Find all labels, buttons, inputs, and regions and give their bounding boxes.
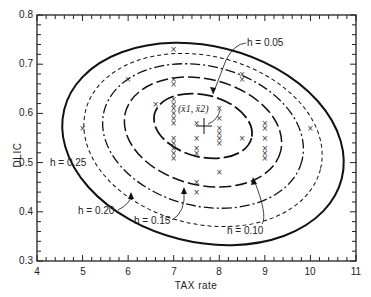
label-h-0.15: h = 0.15 [134,215,171,226]
x-tick-label: 4 [34,266,40,277]
x-tick-label: 11 [351,266,362,277]
y-axis-title: DLIC [12,143,23,168]
x-tick-label: 10 [304,266,316,277]
data-point: × [170,154,177,163]
data-point: × [216,168,223,177]
y-tick-label: 0.4 [19,206,33,217]
contour-h-0.25 [41,14,366,273]
centroid-label: (x̄1, x̄2) [178,103,209,115]
x-tick-label: 8 [216,266,222,277]
data-point: × [193,178,200,187]
data-point: × [262,124,269,133]
data-point: × [193,119,200,128]
contour-h-0.15 [87,43,319,228]
data-points: ×××××××××××××××××××××××××××××××××××××××× [79,45,314,197]
x-axis-title: TAX rate [175,280,218,291]
chart: 4 5 6 7 8 9 10 11 0.3 0.4 0.5 0.6 0.7 0.… [0,0,371,297]
label-h-0.05: h = 0.05 [247,37,284,48]
label-h-0.20: h = 0.20 [78,205,115,216]
y-tick-label: 0.7 [19,58,33,69]
x-tick-label: 7 [171,266,177,277]
data-point: × [193,134,200,143]
data-point: × [262,134,269,143]
data-point: × [307,124,314,133]
y-tick-label: 0.6 [19,107,33,118]
data-point: × [170,80,177,89]
x-tick-label: 6 [125,266,131,277]
data-point: × [193,149,200,158]
data-point: × [125,75,132,84]
data-point: × [152,100,159,109]
data-point: × [262,154,269,163]
data-point: × [170,119,177,128]
data-point: × [170,45,177,54]
x-tick-label: 5 [80,266,86,277]
contour-h-0.20 [65,29,340,251]
x-tick-label: 9 [262,266,268,277]
data-point: × [216,114,223,123]
label-h-0.25: h = 0.25 [50,157,87,168]
data-point: × [193,188,200,197]
label-h-0.10: h = 0.10 [227,225,264,236]
data-point: × [239,75,246,84]
y-tick-label: 0.8 [19,9,33,20]
data-point: × [239,134,246,143]
data-point: × [216,139,223,148]
contours [41,14,366,273]
y-tick-label: 0.3 [19,255,33,266]
data-point: × [79,124,86,133]
y-tick-labels: 0.3 0.4 0.5 0.6 0.7 0.8 [19,9,33,266]
x-tick-labels: 4 5 6 7 8 9 10 11 [34,266,361,277]
